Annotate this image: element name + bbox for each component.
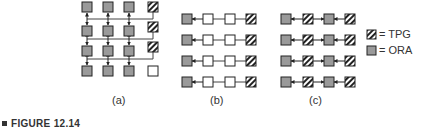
figure-label-text: FIGURE 12.14 <box>11 118 80 129</box>
ora-square <box>324 14 334 24</box>
figure-diagram <box>0 0 432 137</box>
tpg-square <box>148 22 158 32</box>
ora-square <box>82 66 92 76</box>
tpg-square <box>246 56 256 66</box>
legend-tpg-icon <box>367 30 376 39</box>
panel-c-caption: (c) <box>309 94 322 106</box>
ora-square <box>182 14 192 24</box>
empty-square <box>225 14 235 24</box>
legend-ora-icon <box>367 46 376 55</box>
ora-square <box>182 56 192 66</box>
ora-square <box>82 26 92 36</box>
tpg-square <box>345 77 355 87</box>
ora-square <box>182 77 192 87</box>
tpg-square <box>345 35 355 45</box>
ora-square <box>124 46 134 56</box>
tpg-square <box>246 77 256 87</box>
ora-square <box>103 46 113 56</box>
tpg-square <box>148 42 158 52</box>
ora-square <box>182 35 192 45</box>
tpg-square <box>148 2 158 12</box>
tpg-square <box>303 14 313 24</box>
ora-square <box>103 66 113 76</box>
ora-square <box>82 46 92 56</box>
ora-square <box>281 77 291 87</box>
ora-square <box>324 35 334 45</box>
empty-square <box>148 66 158 76</box>
ora-square <box>324 56 334 66</box>
tpg-square <box>303 77 313 87</box>
panel-b <box>182 14 256 87</box>
empty-square <box>225 56 235 66</box>
tpg-square <box>246 14 256 24</box>
tpg-square <box>345 56 355 66</box>
ora-square <box>124 66 134 76</box>
tpg-square <box>345 14 355 24</box>
ora-square <box>281 35 291 45</box>
ora-square <box>281 56 291 66</box>
panel-b-caption: (b) <box>210 94 223 106</box>
tpg-square <box>303 35 313 45</box>
legend <box>367 30 376 55</box>
legend-ora-label: = ORA <box>379 44 412 56</box>
panel-a-caption: (a) <box>112 94 125 106</box>
empty-square <box>225 35 235 45</box>
ora-square <box>103 26 113 36</box>
tpg-square <box>246 35 256 45</box>
empty-square <box>203 77 213 87</box>
panel-c <box>281 14 355 87</box>
empty-square <box>203 14 213 24</box>
ora-square <box>124 2 134 12</box>
ora-square <box>124 26 134 36</box>
figure-label: FIGURE 12.14 <box>2 118 80 129</box>
empty-square <box>203 56 213 66</box>
ora-square <box>324 77 334 87</box>
bullet-icon <box>2 121 7 126</box>
ora-square <box>82 2 92 12</box>
ora-square <box>281 14 291 24</box>
empty-square <box>203 35 213 45</box>
panel-a <box>82 2 158 76</box>
legend-tpg-label: = TPG <box>379 28 411 40</box>
ora-square <box>103 2 113 12</box>
empty-square <box>225 77 235 87</box>
tpg-square <box>303 56 313 66</box>
